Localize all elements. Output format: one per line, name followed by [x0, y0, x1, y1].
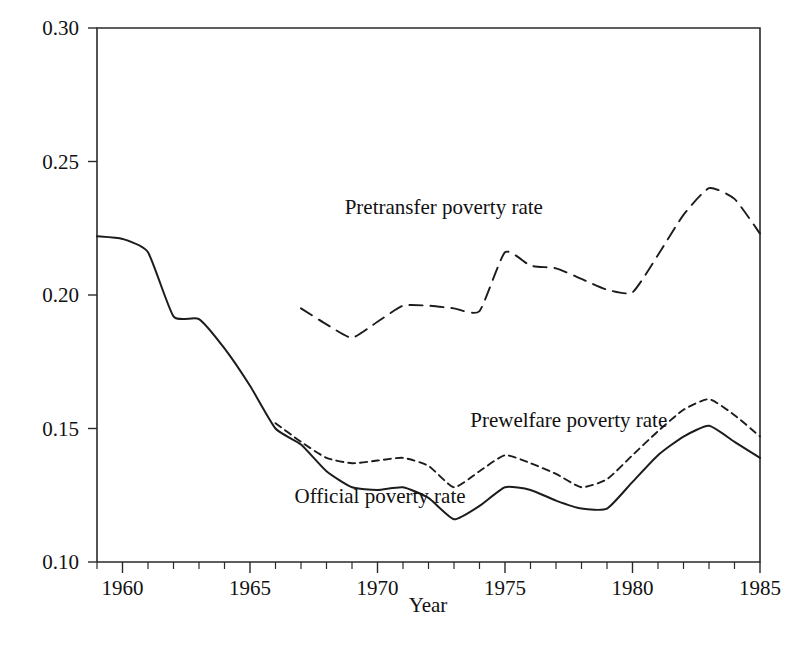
axis-frame: [97, 28, 760, 562]
x-tick-label-1980: 1980: [612, 576, 654, 600]
x-axis-title: Year: [409, 593, 448, 617]
y-axis-tick-labels: 0.100.150.200.250.30: [42, 16, 79, 574]
y-tick-label-0-20: 0.20: [42, 283, 79, 307]
poverty-rate-line-chart: 0.100.150.200.250.30 1960196519701975198…: [0, 0, 801, 648]
x-tick-label-1970: 1970: [357, 576, 399, 600]
series-official-poverty-rate: [97, 236, 760, 519]
plot-frame: [97, 28, 760, 562]
chart-figure: 0.100.150.200.250.30 1960196519701975198…: [0, 0, 801, 648]
annotation-pretransfer-poverty-rate: Pretransfer poverty rate: [345, 195, 543, 219]
series-annotations: Pretransfer poverty ratePrewelfare pover…: [295, 195, 668, 508]
data-series: [97, 188, 760, 519]
y-tick-label-0-10: 0.10: [42, 550, 79, 574]
x-tick-label-1965: 1965: [229, 576, 271, 600]
annotation-prewelfare-poverty-rate: Prewelfare poverty rate: [470, 408, 667, 432]
x-tick-label-1960: 1960: [102, 576, 144, 600]
y-tick-label-0-30: 0.30: [42, 16, 79, 40]
x-tick-label-1975: 1975: [484, 576, 526, 600]
annotation-official-poverty-rate: Official poverty rate: [295, 484, 466, 508]
y-tick-label-0-15: 0.15: [42, 417, 79, 441]
y-tick-label-0-25: 0.25: [42, 150, 79, 174]
x-tick-label-1985: 1985: [739, 576, 781, 600]
